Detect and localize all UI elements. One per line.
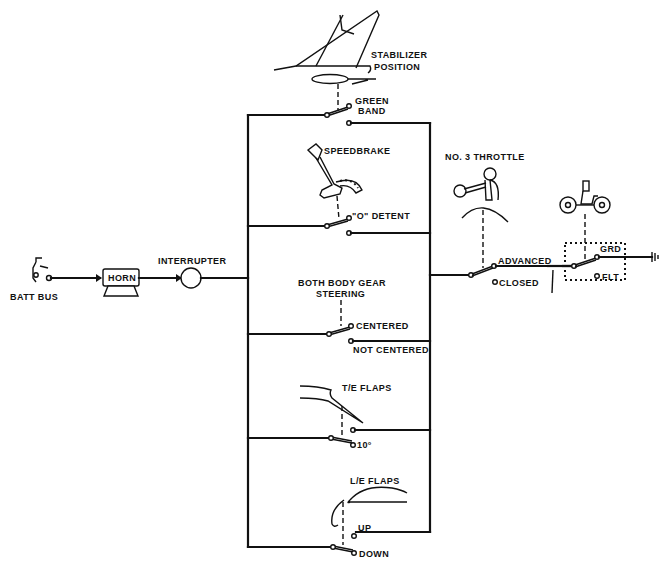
steering-label-2: STEERING	[316, 289, 365, 299]
o-detent-label: "O" DETENT	[352, 211, 410, 221]
interrupter: INTERRUPTER	[158, 256, 227, 288]
rung-stabilizer: STABILIZER POSITION GREEN BAND	[248, 11, 430, 125]
horn-label: HORN	[108, 273, 136, 283]
grd-label: GRD	[600, 244, 621, 254]
throttle-lever-icon	[454, 168, 508, 222]
closed-label: CLOSED	[499, 278, 539, 288]
batt-bus-source: BATT BUS	[10, 258, 58, 302]
break-mark	[552, 270, 553, 293]
interrupter-label: INTERRUPTER	[158, 256, 227, 266]
not-centered-label: NOT CENTERED	[353, 345, 429, 355]
speedbrake-label: SPEEDBRAKE	[324, 146, 391, 156]
stabilizer-label-1: STABILIZER	[371, 50, 427, 60]
arrow-icon	[96, 274, 102, 282]
advanced-label: ADVANCED	[498, 256, 552, 266]
horn: HORN	[103, 269, 139, 296]
stabilizer-tail-icon	[274, 11, 379, 84]
rung-te-flaps: T/E FLAPS 10°	[248, 383, 430, 450]
te-flaps-label: T/E FLAPS	[342, 383, 392, 393]
landing-gear-icon	[560, 181, 610, 213]
interrupter-icon	[181, 268, 201, 288]
rung-speedbrake: SPEEDBRAKE "O" DETENT	[248, 144, 430, 235]
ten-degree-label: 10°	[357, 440, 372, 450]
battery-bus-icon	[33, 258, 42, 282]
green-band-label-2: BAND	[358, 106, 386, 116]
stabilizer-label-2: POSITION	[374, 62, 420, 72]
air-ground-switch: GRD FLT	[548, 181, 658, 282]
horn-base-icon	[104, 286, 138, 296]
takeoff-warning-schematic: BATT BUS HORN INTERRUPTER STABILIZER POS…	[0, 0, 670, 568]
green-band-label-1: GREEN	[355, 96, 389, 106]
rung-le-flaps: L/E FLAPS UP DOWN	[248, 476, 430, 559]
batt-bus-label: BATT BUS	[10, 292, 58, 302]
rung-steering: BOTH BODY GEAR STEERING CENTERED NOT CEN…	[248, 278, 430, 355]
steering-label-1: BOTH BODY GEAR	[298, 278, 386, 288]
centered-label: CENTERED	[356, 321, 409, 331]
flt-label: FLT	[602, 272, 619, 282]
throttle-switch: NO. 3 THROTTLE ADVANCED CLOSED	[445, 152, 563, 293]
throttle-label: NO. 3 THROTTLE	[445, 152, 525, 162]
le-flaps-label: L/E FLAPS	[350, 476, 400, 486]
down-label: DOWN	[359, 549, 389, 559]
